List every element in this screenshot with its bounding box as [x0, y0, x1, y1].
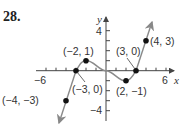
- y-tick-label-4: 4: [96, 25, 102, 37]
- point-4-3: [143, 38, 149, 44]
- point-neg4-neg3: [63, 98, 69, 104]
- point-label-neg4-neg3: (−4, −3): [2, 94, 39, 106]
- y-tick-label-neg4: −4: [90, 104, 102, 116]
- x-tick-label-6: 6: [162, 74, 168, 86]
- point-2-neg1: [123, 78, 129, 84]
- function-graph: −6 6 4 −4 x y (−4, −3) (−3, 0) (−2, 1) (…: [0, 0, 194, 136]
- x-tick-label-neg6: −6: [34, 74, 46, 86]
- point-3-0: [133, 68, 139, 74]
- y-axis-label: y: [96, 13, 102, 25]
- x-axis-label: x: [173, 74, 179, 86]
- point-label-neg2-1: (−2, 1): [63, 45, 94, 57]
- y-axis: [106, 17, 110, 121]
- point-neg2-1: [83, 58, 89, 64]
- point-label-4-3: (4, 3): [150, 35, 175, 47]
- point-label-neg3-0: (−3, 0): [72, 83, 103, 95]
- point-label-2-neg1: (2, −1): [116, 85, 147, 97]
- point-label-3-0: (3, 0): [116, 45, 141, 57]
